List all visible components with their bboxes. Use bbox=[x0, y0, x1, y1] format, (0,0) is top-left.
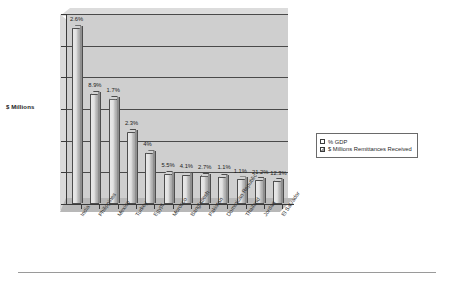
y-tick-mark bbox=[61, 141, 66, 142]
y-tick-mark bbox=[61, 14, 66, 15]
bar-side-face bbox=[172, 172, 175, 203]
bar-side-face bbox=[135, 130, 138, 203]
y-tick-mark bbox=[61, 172, 66, 173]
bar bbox=[164, 174, 173, 204]
y-tick-mark bbox=[61, 109, 66, 110]
bar-data-label: 1.7% bbox=[107, 87, 120, 94]
bar-data-label: 1.1% bbox=[217, 164, 230, 171]
bar-side-face bbox=[117, 97, 120, 203]
bar-data-label: 4% bbox=[143, 141, 151, 148]
y-tick-row: 8000 bbox=[0, 74, 60, 80]
bar-side-face bbox=[98, 92, 101, 203]
shaded-square-icon bbox=[320, 147, 325, 152]
bar-side-face bbox=[263, 178, 266, 203]
bar-side-face bbox=[208, 174, 211, 203]
chart-legend: % GDP $ Millions Remittances Received bbox=[316, 133, 418, 158]
legend-item-gdp: % GDP bbox=[320, 139, 412, 145]
bar-side-face bbox=[226, 175, 229, 203]
plot-area: 020004000600080001000012000 $ Millions 2… bbox=[0, 0, 451, 286]
bar bbox=[273, 181, 282, 204]
bar-data-label: 2.7% bbox=[198, 164, 211, 171]
bar-data-label: 4.1% bbox=[180, 163, 193, 170]
bar-data-label: 2.6% bbox=[70, 16, 83, 23]
y-axis-title: $ Millions bbox=[6, 104, 58, 110]
y-tick-mark bbox=[61, 204, 66, 205]
y-tick-row: 4000 bbox=[0, 138, 60, 144]
y-tick-row: 10000 bbox=[0, 43, 60, 49]
gridline bbox=[66, 46, 288, 47]
gridline bbox=[66, 77, 288, 78]
bar-data-label: 2.3% bbox=[125, 120, 138, 127]
footer-divider bbox=[18, 272, 436, 273]
bar bbox=[109, 99, 118, 204]
bar-side-face bbox=[153, 151, 156, 203]
bar-data-label: 1.1% bbox=[234, 168, 247, 175]
bar bbox=[90, 94, 99, 204]
y-tick-mark bbox=[61, 77, 66, 78]
bar-data-label: 8.9% bbox=[88, 82, 101, 89]
bar bbox=[127, 132, 136, 204]
y-axis-line bbox=[66, 14, 67, 204]
gridline bbox=[66, 14, 288, 15]
y-tick-row: 12000 bbox=[0, 11, 60, 17]
bar-side-face bbox=[80, 26, 83, 203]
bar-side-face bbox=[190, 173, 193, 203]
bar-data-label: 12.3% bbox=[270, 170, 286, 177]
legend-label-gdp: % GDP bbox=[328, 139, 347, 145]
white-square-icon bbox=[320, 139, 325, 144]
y-tick-mark bbox=[61, 46, 66, 47]
legend-item-remittances: $ Millions Remittances Received bbox=[320, 146, 412, 152]
bar bbox=[145, 153, 154, 204]
legend-label-remittances: $ Millions Remittances Received bbox=[328, 146, 412, 152]
bar-data-label: 5.5% bbox=[162, 162, 175, 169]
y-tick-row: 0 bbox=[0, 201, 60, 207]
bar-side-face bbox=[281, 179, 284, 203]
bar bbox=[72, 28, 81, 204]
y-tick-row: 2000 bbox=[0, 169, 60, 175]
chart-figure: 020004000600080001000012000 $ Millions 2… bbox=[0, 0, 451, 286]
